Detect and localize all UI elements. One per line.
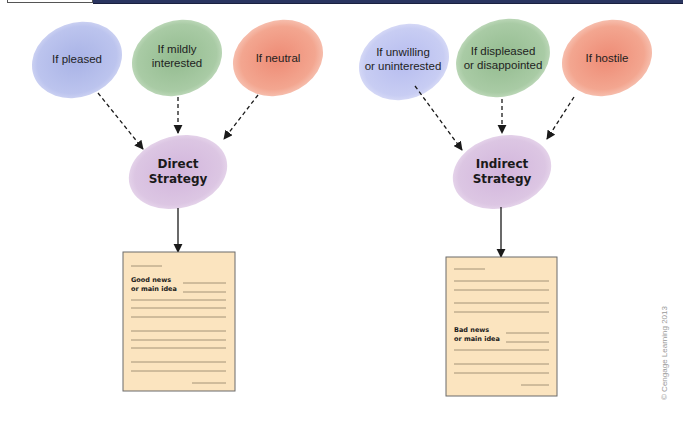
svg-text:Indirect: Indirect [476,157,529,171]
svg-text:Strategy: Strategy [149,172,208,186]
dashed-arrow-pleased [98,93,143,149]
input-bubble-if-neutral: If neutral [222,7,334,108]
strategy-diagram: If pleased If mildly interested If neutr… [0,0,688,422]
strategy-bubble-indirect: Indirect Strategy [444,124,559,219]
svg-text:If pleased: If pleased [52,53,102,65]
svg-text:Bad news: Bad news [454,326,489,334]
svg-text:If mildly: If mildly [158,43,197,55]
input-bubble-if-pleased: If pleased [21,9,133,110]
copyright-credit: © Cengage Learning 2013 [660,306,669,400]
svg-text:Good news: Good news [131,276,171,284]
svg-text:or main idea: or main idea [454,335,500,343]
dashed-arrow-neutral [224,95,258,139]
right-diagram: If unwilling or uninterested If displeas… [348,6,663,396]
document-good-news: Good news or main idea [123,252,235,391]
document-bad-news: Bad news or main idea [446,257,557,396]
svg-text:interested: interested [152,57,203,69]
input-bubble-if-displeased: If displeased or disappointed [445,6,561,110]
input-bubble-if-hostile: If hostile [551,7,663,108]
svg-text:or main idea: or main idea [131,285,177,293]
strategy-bubble-direct: Direct Strategy [120,124,235,219]
svg-text:or disappointed: or disappointed [464,59,543,71]
dashed-arrow-unwilling [415,86,462,150]
svg-text:or uninterested: or uninterested [365,60,442,72]
svg-text:Direct: Direct [158,157,199,171]
left-diagram: If pleased If mildly interested If neutr… [21,7,334,391]
svg-text:If displeased: If displeased [471,45,536,57]
svg-text:Strategy: Strategy [473,172,532,186]
svg-text:If neutral: If neutral [256,52,301,64]
dashed-arrow-hostile [547,97,574,139]
svg-text:If hostile: If hostile [586,52,629,64]
input-bubble-if-mildly-interested: If mildly interested [121,7,233,108]
svg-text:If unwilling: If unwilling [376,46,430,58]
input-bubble-if-unwilling: If unwilling or uninterested [348,11,460,112]
